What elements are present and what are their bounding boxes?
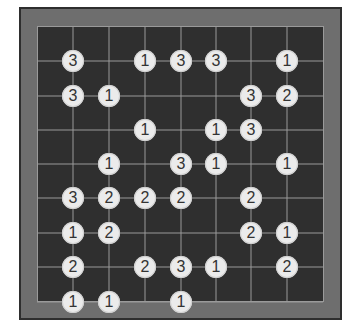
island-r3-c3[interactable]: 3 (170, 153, 192, 175)
island-r1-c1[interactable]: 1 (98, 85, 120, 107)
island-r7-c1[interactable]: 1 (98, 291, 120, 313)
island-r0-c2[interactable]: 1 (134, 50, 156, 72)
island-r4-c0[interactable]: 3 (62, 187, 84, 209)
island-r6-c0[interactable]: 2 (62, 256, 84, 278)
island-r0-c0[interactable]: 3 (62, 50, 84, 72)
island-r6-c3[interactable]: 3 (170, 256, 192, 278)
island-r1-c0[interactable]: 3 (62, 85, 84, 107)
island-r4-c3[interactable]: 2 (170, 187, 192, 209)
island-r4-c1[interactable]: 2 (98, 187, 120, 209)
island-r3-c1[interactable]: 1 (98, 153, 120, 175)
island-r0-c3[interactable]: 3 (170, 50, 192, 72)
island-r6-c6[interactable]: 2 (276, 256, 298, 278)
island-r5-c0[interactable]: 1 (62, 222, 84, 244)
island-r2-c4[interactable]: 1 (205, 119, 227, 141)
island-r4-c5[interactable]: 2 (240, 187, 262, 209)
island-r1-c5[interactable]: 3 (240, 85, 262, 107)
island-r6-c2[interactable]: 2 (134, 256, 156, 278)
island-r5-c5[interactable]: 2 (240, 222, 262, 244)
island-r7-c3[interactable]: 1 (170, 291, 192, 313)
island-r3-c6[interactable]: 1 (276, 153, 298, 175)
island-r1-c6[interactable]: 2 (276, 85, 298, 107)
island-r5-c1[interactable]: 2 (98, 222, 120, 244)
island-r4-c2[interactable]: 2 (134, 187, 156, 209)
island-r7-c0[interactable]: 1 (62, 291, 84, 313)
island-r0-c4[interactable]: 3 (205, 50, 227, 72)
island-r2-c2[interactable]: 1 (134, 119, 156, 141)
island-r2-c5[interactable]: 3 (240, 119, 262, 141)
island-r6-c4[interactable]: 1 (205, 256, 227, 278)
island-r3-c4[interactable]: 1 (205, 153, 227, 175)
island-r0-c6[interactable]: 1 (276, 50, 298, 72)
island-r5-c6[interactable]: 1 (276, 222, 298, 244)
